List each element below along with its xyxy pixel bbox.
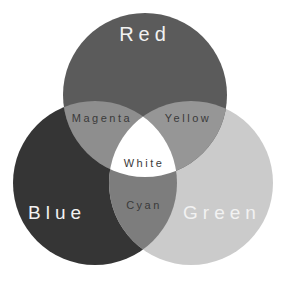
label-green: Green [183, 202, 261, 223]
label-yellow: Yellow [165, 112, 211, 124]
label-white: White [124, 157, 165, 169]
venn-diagram: Red Blue Green Magenta Yellow White Cyan [0, 0, 288, 281]
label-red: Red [119, 23, 171, 45]
label-magenta: Magenta [72, 112, 132, 124]
label-blue: Blue [28, 202, 86, 223]
label-cyan: Cyan [126, 199, 162, 211]
